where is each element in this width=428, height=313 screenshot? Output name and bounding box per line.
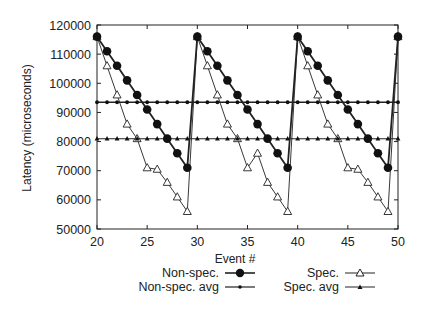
x-tick-label: 50 bbox=[391, 235, 405, 249]
legend-item-spec: Spec. bbox=[215, 266, 375, 280]
x-tick-label: 35 bbox=[241, 235, 255, 249]
x-axis-title: Event # bbox=[215, 252, 256, 266]
y-tick-label: 50000 bbox=[56, 223, 91, 237]
legend-right: Spec. Spec. avg bbox=[215, 266, 375, 294]
small-triangle-marker-icon bbox=[345, 282, 375, 292]
x-tick-label: 30 bbox=[190, 235, 204, 249]
plot-frame bbox=[97, 25, 398, 229]
y-tick-label: 80000 bbox=[56, 135, 91, 149]
x-tick-label: 20 bbox=[90, 235, 104, 249]
y-tick-label: 100000 bbox=[49, 77, 91, 91]
y-tick-label: 110000 bbox=[50, 48, 91, 62]
y-axis-title: Latency (microseconds) bbox=[20, 64, 34, 191]
series-layer bbox=[93, 32, 403, 214]
legend-item-spec-avg: Spec. avg bbox=[215, 280, 375, 294]
open-triangle-marker-icon bbox=[345, 268, 375, 278]
x-tick-label: 25 bbox=[140, 235, 154, 249]
legend-label: Spec. bbox=[307, 266, 339, 280]
legend-label: Non-spec. avg bbox=[138, 280, 219, 294]
y-tick-label: 120000 bbox=[49, 19, 91, 33]
x-tick-label: 45 bbox=[341, 235, 355, 249]
y-tick-label: 60000 bbox=[56, 193, 91, 207]
legend-label: Spec. avg bbox=[283, 280, 339, 294]
y-tick-label: 70000 bbox=[56, 164, 91, 178]
y-tick-label: 90000 bbox=[56, 106, 91, 120]
legend-label: Non-spec. bbox=[162, 266, 219, 280]
x-tick-label: 40 bbox=[291, 235, 305, 249]
